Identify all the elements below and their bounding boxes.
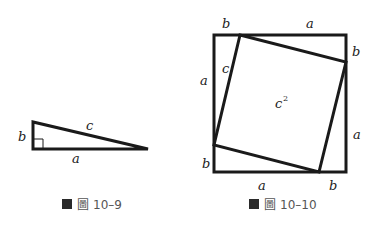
label-bottom-a: a bbox=[258, 178, 266, 193]
label-inner-c: c bbox=[222, 61, 230, 76]
caption-prefix: 圖 bbox=[77, 198, 89, 212]
caption-10-9: 圖 10–9 bbox=[62, 198, 122, 212]
label-right-a: a bbox=[353, 127, 361, 142]
label-area-c: c bbox=[275, 96, 283, 111]
label-top-b: b bbox=[222, 16, 230, 31]
label-area-exponent: 2 bbox=[283, 94, 288, 103]
caption-square-icon bbox=[249, 199, 259, 209]
caption-square-icon bbox=[62, 199, 72, 209]
caption-10-10: 圖 10–10 bbox=[249, 198, 317, 212]
label-left-a: a bbox=[200, 73, 208, 88]
pythagorean-diagrams: c b a 圖 10–9 b a b a b a b a c c 2 bbox=[0, 0, 381, 235]
figure-10-10: b a b a b a b a c c 2 圖 10–10 bbox=[200, 16, 361, 212]
label-left-b: b bbox=[202, 156, 210, 171]
label-hypotenuse-c: c bbox=[86, 118, 94, 133]
caption-number: 10–10 bbox=[280, 198, 317, 212]
figure-10-9: c b a 圖 10–9 bbox=[18, 118, 148, 212]
label-top-a: a bbox=[306, 16, 314, 31]
label-bottom-b: b bbox=[329, 178, 337, 193]
label-leg-b: b bbox=[18, 129, 26, 144]
label-right-b: b bbox=[352, 44, 360, 59]
caption-number: 10–9 bbox=[93, 198, 122, 212]
caption-prefix: 圖 bbox=[264, 198, 276, 212]
label-leg-a: a bbox=[72, 151, 80, 166]
